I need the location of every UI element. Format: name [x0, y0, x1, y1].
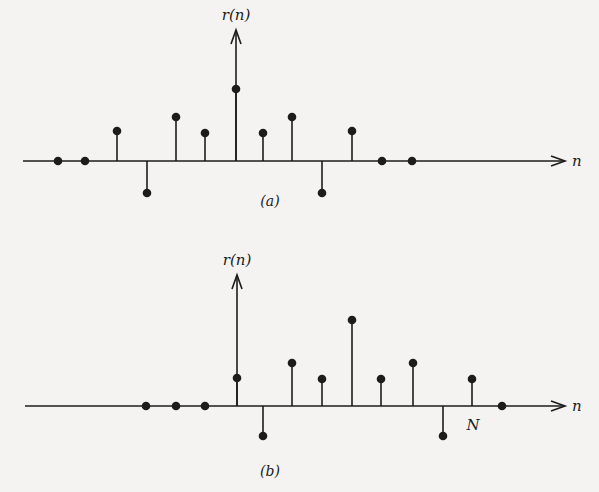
stem-marker — [232, 85, 241, 94]
stem-marker — [378, 157, 387, 166]
y-axis-label: r(n) — [223, 251, 252, 269]
x-axis-label: n — [572, 397, 582, 415]
stem-marker — [498, 402, 507, 411]
y-axis-label: r(n) — [222, 6, 251, 24]
stem-marker — [259, 432, 268, 441]
stem-marker — [172, 402, 181, 411]
stem-marker — [318, 189, 327, 198]
stem-marker — [377, 375, 386, 384]
stem-marker — [143, 189, 152, 198]
stem-marker — [201, 129, 210, 138]
stem-marker — [409, 359, 418, 368]
stem-marker — [439, 432, 448, 441]
panel-caption: (a) — [260, 193, 279, 209]
stem-marker — [259, 129, 268, 138]
stem-marker — [81, 157, 90, 166]
stem-marker — [113, 127, 122, 136]
stem-marker — [348, 127, 357, 136]
stem-marker — [172, 113, 181, 122]
period-N-label: N — [465, 416, 480, 434]
panel-caption: (b) — [260, 463, 280, 479]
stem-marker — [468, 375, 477, 384]
stem-marker — [54, 157, 63, 166]
stem-marker — [348, 316, 357, 325]
stem-marker — [142, 402, 151, 411]
stem-marker — [288, 113, 297, 122]
stem-marker — [318, 375, 327, 384]
x-axis-label: n — [572, 152, 582, 170]
stem-marker — [408, 157, 417, 166]
stem-marker — [233, 374, 242, 383]
stem-marker — [288, 359, 297, 368]
panel-a: r(n)n(a) — [23, 6, 582, 209]
panel-b: r(n)n(b)N — [25, 251, 582, 479]
stem-marker — [201, 402, 210, 411]
autocorrelation-figure: r(n)n(a) r(n)n(b)N — [0, 0, 599, 492]
